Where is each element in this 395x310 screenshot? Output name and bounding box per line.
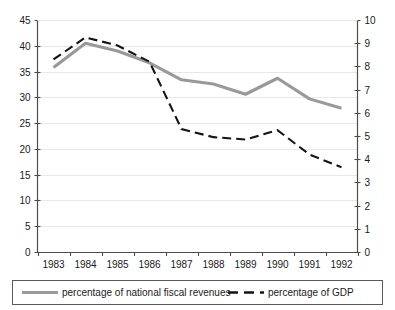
chart-container: 1983198419851986198719881989199019911992… [0, 0, 395, 310]
right-axis-tick-label: 6 [365, 108, 371, 119]
legend-label-national-fiscal-revenues: percentage of national fiscal revenues [62, 287, 230, 298]
gridlines-group [38, 21, 358, 227]
left-axis-tick-label: 35 [19, 67, 31, 78]
x-axis-tick-label: 1985 [106, 259, 129, 270]
x-axis-tick-label: 1989 [234, 259, 257, 270]
left-axis-tick-label: 30 [19, 92, 31, 103]
x-axis-tick-label: 1986 [138, 259, 161, 270]
left-axis-tick-label: 0 [25, 247, 31, 258]
x-axis-tick-label: 1990 [266, 259, 289, 270]
left-axis-tick-label: 15 [19, 170, 31, 181]
right-axis-tick-label: 2 [365, 201, 371, 212]
right-axis-tick-label: 5 [365, 131, 371, 142]
right-axis-tick-label: 4 [365, 154, 371, 165]
right-axis-labels-group: 012345678910 [365, 15, 377, 258]
x-axis-tick-label: 1992 [330, 259, 353, 270]
right-axis-tick-label: 3 [365, 177, 371, 188]
x-axis-tick-label: 1983 [42, 259, 65, 270]
left-axis-tick-label: 25 [19, 118, 31, 129]
right-axis-tick-label: 1 [365, 224, 371, 235]
left-axis-tick-label: 40 [19, 41, 31, 52]
x-axis-tick-label: 1991 [298, 259, 321, 270]
left-axis-labels-group: 051015202530354045 [19, 15, 31, 258]
left-axis-tick-label: 45 [19, 15, 31, 26]
left-axis-tick-label: 20 [19, 144, 31, 155]
x-axis-tick-label: 1988 [202, 259, 225, 270]
right-axis-tick-label: 9 [365, 38, 371, 49]
series-line-percentage-of-gdp [54, 37, 342, 167]
x-axis-tick-label: 1987 [170, 259, 193, 270]
right-axis-tick-label: 7 [365, 85, 371, 96]
right-axis-tick-label: 10 [365, 15, 377, 26]
right-axis-tick-label: 0 [365, 247, 371, 258]
left-axis-tick-label: 10 [19, 195, 31, 206]
series-line-national-fiscal-revenues [54, 43, 342, 108]
right-axis-tick-label: 8 [365, 61, 371, 72]
x-axis-tick-label: 1984 [74, 259, 97, 270]
legend-label-percentage-of-gdp: percentage of GDP [268, 287, 354, 298]
x-axis-labels-group: 1983198419851986198719881989199019911992 [42, 259, 353, 270]
line-chart: 1983198419851986198719881989199019911992… [0, 0, 395, 310]
left-axis-tick-label: 5 [25, 221, 31, 232]
